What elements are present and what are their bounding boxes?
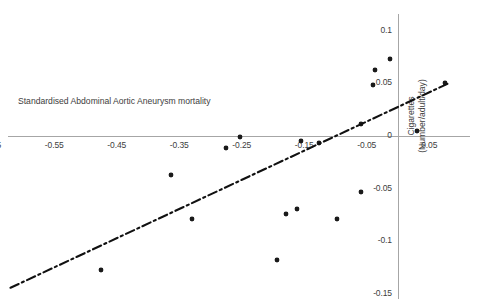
trendline-svg xyxy=(0,0,480,308)
trendline xyxy=(11,83,449,287)
scatter-chart: Standardised Abdominal Aortic Aneurysm m… xyxy=(0,0,480,308)
